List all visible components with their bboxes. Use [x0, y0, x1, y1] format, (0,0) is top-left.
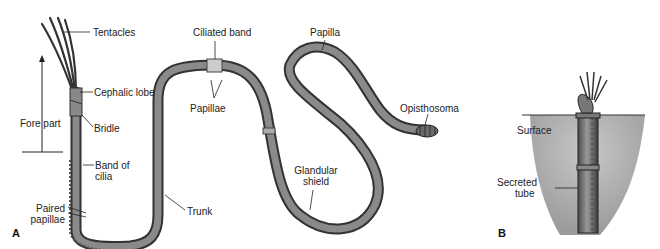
label-ciliated-band: Ciliated band	[193, 27, 251, 38]
label-secreted-tube-line2: tube	[497, 188, 534, 199]
label-tentacles: Tentacles	[93, 27, 135, 38]
label-opisthosoma: Opisthosoma	[400, 103, 459, 114]
label-bridle: Bridle	[94, 123, 120, 134]
label-cephalic-lobe: Cephalic lobe	[94, 87, 155, 98]
label-band-of-cilia-line2: cilia	[95, 171, 112, 182]
sediment-panel-b	[522, 72, 645, 235]
label-fore-part: Fore part	[20, 118, 61, 129]
label-secreted-tube: Secreted tube	[497, 177, 537, 199]
tentacles-shape	[42, 18, 76, 92]
label-secreted-tube-line1: Secreted	[497, 177, 537, 188]
label-paired-papillae-line1: Paired	[36, 203, 65, 214]
worm-body	[70, 47, 438, 249]
label-band-of-cilia: Band of cilia	[95, 160, 129, 182]
label-band-of-cilia-line1: Band of	[95, 160, 129, 171]
label-glandular-shield-line1: Glandular	[294, 165, 337, 176]
label-trunk: Trunk	[187, 206, 212, 217]
label-paired-papillae: Paired papillae	[25, 203, 65, 225]
label-papilla: Papilla	[310, 27, 340, 38]
label-paired-papillae-line2: papillae	[31, 214, 65, 225]
label-surface: Surface	[517, 125, 551, 136]
panel-label-a: A	[12, 227, 20, 239]
label-glandular-shield: Glandular shield	[292, 165, 340, 187]
fore-part-arrow	[22, 55, 63, 152]
label-glandular-shield-line2: shield	[303, 176, 329, 187]
panel-label-b: B	[498, 227, 506, 239]
label-papillae: Papillae	[190, 103, 226, 114]
